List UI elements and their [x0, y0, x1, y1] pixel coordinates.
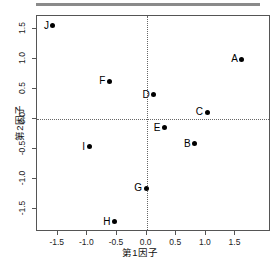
- y-axis-tick-label-text: 0.0: [17, 112, 27, 124]
- x-axis-tick: [205, 231, 206, 235]
- x-axis-tick-label: -1.5: [49, 237, 64, 247]
- y-axis-tick-label: 1.0: [14, 53, 30, 63]
- point-label: A: [231, 54, 242, 64]
- point-label: B: [184, 139, 195, 149]
- point-label: C: [196, 107, 207, 117]
- y-axis-tick-label: -1.0: [14, 173, 30, 183]
- y-axis-tick-label-text: 0.5: [17, 82, 27, 94]
- y-axis-tick-label-text: 1.5: [17, 22, 27, 34]
- y-axis-tick-label: 1.5: [14, 23, 30, 33]
- y-axis-tick-label-text: -1.0: [17, 171, 27, 186]
- point-label: I: [82, 142, 89, 152]
- x-axis-tick: [234, 231, 235, 235]
- x-axis-tick-label: -0.5: [109, 237, 124, 247]
- point-label: J: [44, 21, 53, 31]
- scatter-plot-figure: 第2因子 第1因子 -1.5-1.0-0.50.00.51.01.51.51.0…: [0, 0, 280, 264]
- point-label: G: [134, 183, 146, 193]
- point-label: D: [142, 90, 153, 100]
- y-axis-tick-label-text: 1.0: [17, 52, 27, 64]
- x-axis-tick-label: 0.5: [169, 237, 181, 247]
- point-label: E: [154, 123, 165, 133]
- point-label: F: [99, 76, 109, 86]
- x-axis-tick: [57, 231, 58, 235]
- y-axis-tick-label: 0.5: [14, 83, 30, 93]
- y-axis-tick-label: -0.5: [14, 143, 30, 153]
- y-axis-tick-label-text: -0.5: [17, 141, 27, 156]
- plot-area: ABCDEFGHIJ: [36, 15, 270, 231]
- x-axis-tick-label: -1.0: [79, 237, 94, 247]
- y-axis-tick-label-text: -1.5: [17, 201, 27, 216]
- x-axis-tick: [116, 231, 117, 235]
- x-axis-tick-label: 1.0: [199, 237, 211, 247]
- zero-line-horizontal: [37, 119, 269, 120]
- zero-line-vertical: [147, 16, 148, 230]
- y-axis-tick-label: -1.5: [14, 203, 30, 213]
- x-axis-tick: [175, 231, 176, 235]
- x-axis-tick: [146, 231, 147, 235]
- y-axis-tick-label: 0.0: [14, 113, 30, 123]
- x-axis-tick: [86, 231, 87, 235]
- x-axis-label: 第1因子: [0, 245, 280, 259]
- x-axis-tick-label: 0.0: [140, 237, 152, 247]
- point-label: H: [103, 217, 114, 227]
- top-truncated-bar: [36, 3, 260, 6]
- x-axis-tick-label: 1.5: [229, 237, 241, 247]
